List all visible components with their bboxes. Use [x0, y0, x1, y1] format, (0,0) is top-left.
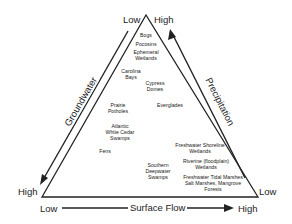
wetland-atlantic-white-cedar: Atlantic White Cedar Swamps [100, 123, 140, 141]
wetland-ephemeral: Ephemeral Wetlands [126, 49, 166, 61]
apex-low-label: Low [123, 14, 140, 25]
surface-flow-axis-title: Surface Flow [128, 202, 187, 213]
wetland-pocosins: Pocosins [131, 41, 161, 47]
surface-flow-arrow-head [224, 204, 234, 212]
wetland-riverine: Riverine (floodplain) Wetlands [176, 158, 236, 170]
wetland-tidal-salt-mangrove: Freshwater Tidal Marshes Salt Marshes, M… [177, 174, 249, 192]
surface-flow-low-label: Low [40, 203, 57, 214]
wetland-carolina-bays: Carolina Bays [116, 68, 146, 80]
groundwater-high-label: High [18, 186, 38, 197]
precipitation-low-label: Low [259, 186, 276, 197]
wetland-southern-deepwater: Southern Deepwater Swamps [138, 162, 178, 180]
groundwater-arrow-head [40, 174, 48, 185]
wetland-bogs: Bogs [133, 32, 159, 38]
wetland-everglades: Everglades [150, 102, 190, 108]
surface-flow-high-label: High [238, 203, 258, 214]
wetland-prairie-potholes: Prairie Potholes [102, 102, 134, 114]
wetland-freshwater-shoreline: Freshwater Shoreline Wetlands [170, 142, 230, 154]
wetland-cypress-domes: Cypress Domes [140, 80, 170, 92]
wetland-fens: Fens [94, 148, 116, 154]
apex-high-label: High [154, 14, 174, 25]
